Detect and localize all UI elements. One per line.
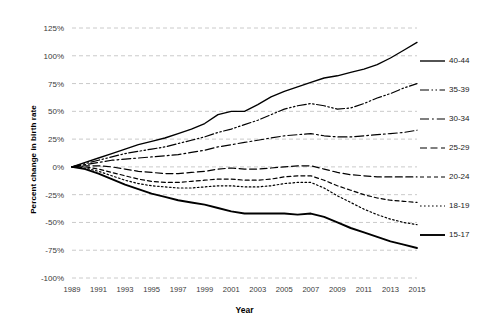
legend-item-15-17[interactable]: 15-17 (420, 220, 497, 249)
x-tick-label: 1993 (117, 285, 134, 294)
legend-label: 40-44 (449, 56, 469, 65)
series-line-15-17 (72, 167, 417, 248)
y-tick-label: 125% (8, 24, 64, 33)
y-tick-label: -75% (8, 246, 64, 255)
x-axis-title: Year (72, 305, 417, 315)
y-tick-label: 50% (8, 107, 64, 116)
legend-label: 15-17 (449, 230, 469, 239)
y-tick-label: 25% (8, 135, 64, 144)
x-tick-label: 2009 (329, 285, 346, 294)
x-tick-label: 2013 (382, 285, 399, 294)
legend-line-swatch (420, 56, 445, 66)
x-tick-label: 1991 (90, 285, 107, 294)
x-tick-label: 1989 (64, 285, 81, 294)
legend-line-swatch (420, 172, 445, 182)
y-tick-label: -25% (8, 190, 64, 199)
series-line-40-44 (72, 42, 417, 166)
y-tick-label: 0% (8, 162, 64, 171)
legend-line-swatch (420, 85, 445, 95)
x-tick-label: 2005 (276, 285, 293, 294)
legend-label: 18-19 (449, 201, 469, 210)
legend-label: 35-39 (449, 85, 469, 94)
series-line-35-39 (72, 84, 417, 167)
plot-area (72, 28, 417, 278)
y-tick-label: -50% (8, 218, 64, 227)
x-tick-label: 2001 (223, 285, 240, 294)
plot-svg (72, 28, 417, 278)
legend-item-20-24[interactable]: 20-24 (420, 162, 497, 191)
legend-item-30-34[interactable]: 30-34 (420, 104, 497, 133)
y-tick-label: -100% (8, 274, 64, 283)
x-tick-label: 2015 (409, 285, 426, 294)
gridlines (72, 28, 417, 278)
legend-line-swatch (420, 230, 445, 240)
x-tick-label: 2011 (356, 285, 372, 294)
legend-label: 25-29 (449, 143, 469, 152)
y-tick-label: 100% (8, 51, 64, 60)
data-series-group (72, 42, 417, 248)
legend-line-swatch (420, 201, 445, 211)
legend-item-18-19[interactable]: 18-19 (420, 191, 497, 220)
x-tick-label: 2003 (249, 285, 266, 294)
x-tick-label: 1999 (196, 285, 213, 294)
chart-container: Percent change in birth rate 125%100%75%… (0, 0, 497, 330)
legend: 40-4435-3930-3425-2920-2418-1915-17 (420, 46, 497, 249)
y-tick-label: 75% (8, 79, 64, 88)
y-axis-tick-labels: 125%100%75%50%25%0%-25%-50%-75%-100% (8, 0, 64, 330)
legend-line-swatch (420, 114, 445, 124)
legend-item-35-39[interactable]: 35-39 (420, 75, 497, 104)
legend-item-25-29[interactable]: 25-29 (420, 133, 497, 162)
series-line-30-34 (72, 130, 417, 167)
x-tick-label: 1995 (143, 285, 160, 294)
x-tick-label: 1997 (170, 285, 187, 294)
legend-label: 30-34 (449, 114, 469, 123)
legend-label: 20-24 (449, 172, 469, 181)
legend-line-swatch (420, 143, 445, 153)
x-tick-label: 2007 (302, 285, 319, 294)
legend-item-40-44[interactable]: 40-44 (420, 46, 497, 75)
